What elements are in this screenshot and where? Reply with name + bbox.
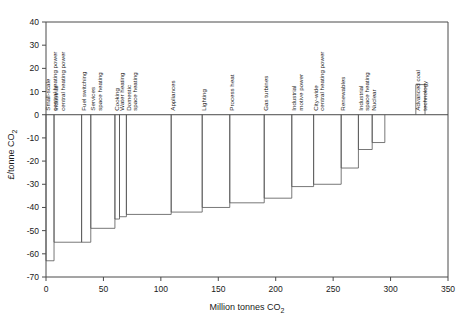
bar-outline bbox=[91, 115, 115, 229]
y-tick-label: -10 bbox=[27, 133, 40, 143]
bar-label-line2: space heating bbox=[96, 72, 103, 111]
bar-outline bbox=[292, 115, 314, 187]
y-tick-label: -60 bbox=[27, 249, 40, 259]
x-tick-label: 200 bbox=[269, 284, 283, 294]
chart-container: 403020100-10-20-30-40-50-60-700501001502… bbox=[0, 0, 461, 321]
bar-label: Process heat bbox=[228, 74, 235, 110]
bar-small-scale-central-heating-power[interactable]: Small-scalecentral heating power bbox=[44, 52, 58, 261]
bar-label-line2: space heating bbox=[363, 72, 370, 111]
bar-outline bbox=[358, 115, 372, 150]
bar-outline bbox=[54, 115, 82, 243]
x-tick-label: 350 bbox=[441, 284, 455, 294]
y-axis-title: £/tonne CO2 bbox=[6, 129, 18, 179]
bar-outline bbox=[264, 115, 292, 198]
bar-industrial-motive-power[interactable]: Industrialmotive power bbox=[290, 74, 314, 187]
bar-label: Appliances bbox=[169, 80, 176, 110]
x-tick-label: 100 bbox=[154, 284, 168, 294]
bar-outline bbox=[126, 115, 171, 215]
bar-label-line2: technology bbox=[421, 80, 428, 111]
bar-outline bbox=[230, 115, 264, 203]
y-tick-label: 20 bbox=[30, 63, 40, 73]
bar-outline bbox=[46, 115, 54, 261]
bar-domestic-space-heating[interactable]: Domesticspace heating bbox=[125, 72, 172, 215]
y-tick-label: -40 bbox=[27, 202, 40, 212]
bar-gas-turbines[interactable]: Gas turbines bbox=[262, 76, 291, 199]
x-tick-label: 0 bbox=[44, 284, 49, 294]
y-tick-label: 30 bbox=[30, 40, 40, 50]
bar-process-heat[interactable]: Process heat bbox=[228, 74, 264, 202]
bar-label-line2: central heating power bbox=[318, 52, 325, 111]
bar-label: Fuel switching bbox=[80, 71, 87, 111]
y-tick-label: -30 bbox=[27, 179, 40, 189]
bar-label: Gas turbines bbox=[262, 76, 269, 111]
bar-outline bbox=[202, 115, 230, 208]
bar-appliances[interactable]: Appliances bbox=[169, 80, 202, 212]
bar-outline bbox=[341, 115, 358, 168]
bar-label: Nuclear bbox=[370, 89, 377, 110]
bar-outline bbox=[120, 115, 127, 217]
x-tick-label: 50 bbox=[99, 284, 109, 294]
y-tick-label: -50 bbox=[27, 226, 40, 236]
bar-nuclear[interactable]: Nuclear bbox=[370, 89, 384, 142]
bar-services-space-heating[interactable]: Servicesspace heating bbox=[89, 72, 115, 229]
bar-label-line2: space heating bbox=[131, 72, 138, 111]
bar-advanced-coal-technology[interactable]: Advanced coaltechnology bbox=[414, 70, 428, 115]
y-tick-label: 0 bbox=[34, 110, 39, 120]
bar-outline bbox=[314, 115, 342, 185]
bar-renewables[interactable]: Renewables bbox=[339, 77, 358, 168]
abatement-cost-curve-chart: 403020100-10-20-30-40-50-60-700501001502… bbox=[0, 0, 461, 321]
bar-outline bbox=[82, 115, 91, 243]
x-tick-label: 250 bbox=[326, 284, 340, 294]
bar-outline bbox=[372, 115, 385, 143]
bar-label: Lighting bbox=[200, 88, 207, 110]
bar-outline bbox=[115, 115, 120, 219]
y-tick-label: 10 bbox=[30, 87, 40, 97]
bar-label: Renewables bbox=[339, 77, 346, 111]
x-tick-label: 300 bbox=[383, 284, 397, 294]
x-axis-title: Million tonnes CO2 bbox=[210, 302, 285, 314]
x-tick-label: 150 bbox=[211, 284, 225, 294]
bar-lighting[interactable]: Lighting bbox=[200, 88, 229, 207]
bar-city-wide-central-heating-power[interactable]: City-widecentral heating power bbox=[312, 52, 341, 185]
bar-outline bbox=[171, 115, 202, 212]
y-tick-label: -70 bbox=[27, 272, 40, 282]
bar-label-line2: central heating power bbox=[59, 52, 66, 111]
bar-label-line2: motive power bbox=[297, 74, 304, 111]
y-tick-label: -20 bbox=[27, 156, 40, 166]
y-tick-label: 40 bbox=[30, 17, 40, 27]
